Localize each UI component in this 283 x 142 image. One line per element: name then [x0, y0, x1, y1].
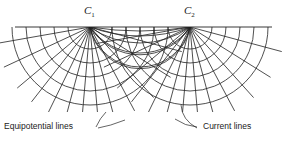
current-ray — [190, 27, 271, 77]
equipotential-arc — [112, 27, 268, 105]
arrow-current-2 — [181, 105, 197, 128]
arrow-equipotential-2 — [98, 120, 125, 128]
equipotential-lines — [12, 27, 268, 105]
current-lines-label: Current lines — [203, 121, 251, 131]
current-ray — [17, 27, 90, 88]
equipotential-arc — [154, 27, 226, 63]
arrow-equipotential-1 — [96, 112, 106, 127]
equipotential-lines-label: Equipotential lines — [4, 121, 73, 131]
electrode-c1-label: C1 — [84, 4, 95, 19]
equipotential-arc — [54, 27, 126, 63]
label-arrows — [96, 105, 197, 128]
equipotential-arc — [12, 27, 168, 105]
electrode-c2-label: C2 — [184, 4, 195, 19]
